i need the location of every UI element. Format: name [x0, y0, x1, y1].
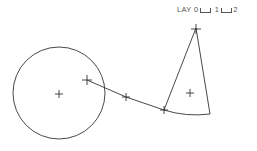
vertex-cross-icon [160, 106, 168, 114]
centroid-cross-icon [186, 89, 194, 97]
cross-markers [55, 24, 201, 114]
connector-line[interactable] [87, 80, 164, 110]
mid-cross-icon [122, 93, 130, 101]
cad-drawing [0, 0, 257, 151]
center-cross-icon [55, 90, 63, 98]
start-cross-icon [82, 75, 92, 85]
apex-cross-icon [191, 24, 201, 34]
sector-shape[interactable] [164, 28, 210, 115]
